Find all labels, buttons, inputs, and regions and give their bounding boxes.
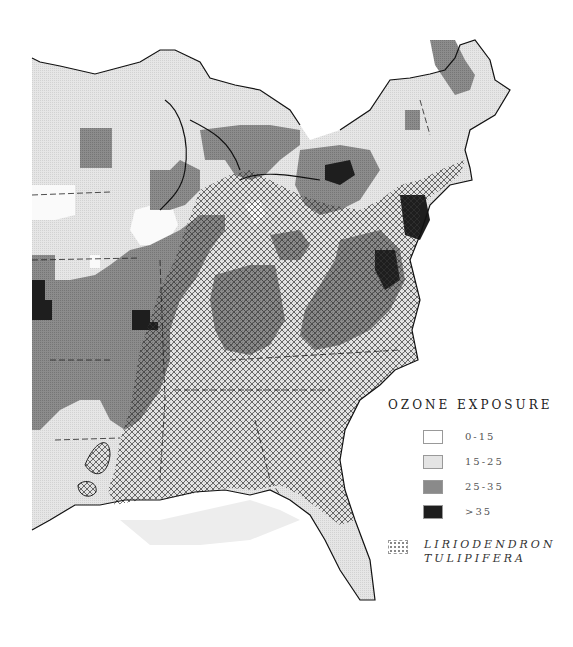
swatch-light [423,455,443,469]
species-label: LIRIODENDRON TULIPIFERA [424,538,556,566]
legend-label: >35 [465,506,492,517]
swatch-high [423,505,443,519]
swatch-low [423,430,443,444]
legend-item-15-25: 15-25 [423,449,568,474]
swatch-medium [423,480,443,494]
legend-item-0-15: 0-15 [423,424,568,449]
legend-label: 15-25 [465,456,504,467]
legend-item-species: LIRIODENDRON TULIPIFERA [388,538,568,566]
legend-label: 0-15 [465,431,495,442]
legend: OZONE EXPOSURE 0-15 15-25 25-35 >35 LIRI… [388,398,568,566]
legend-title: OZONE EXPOSURE [388,398,568,412]
legend-item-35-plus: >35 [423,499,568,524]
legend-label: 25-35 [465,481,504,492]
swatch-species-range [388,540,408,554]
legend-item-25-35: 25-35 [423,474,568,499]
